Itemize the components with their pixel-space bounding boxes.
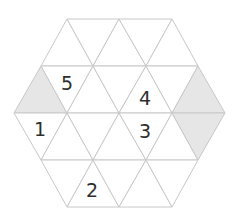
cell-layer (14, 19, 225, 207)
puzzle-board: 54132 (0, 0, 239, 217)
